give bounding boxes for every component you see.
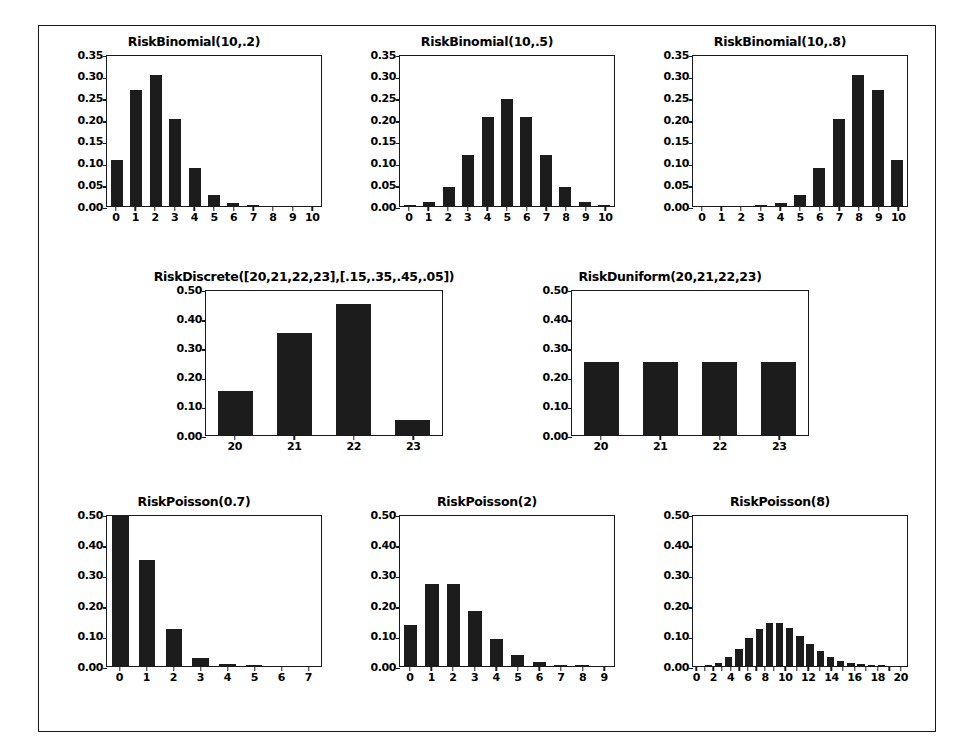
- bar-slot: [324, 291, 383, 435]
- bar: [501, 99, 513, 206]
- bar: [227, 203, 239, 206]
- bar-slot: [732, 56, 751, 206]
- x-axis-tick-label: 8: [263, 207, 283, 223]
- bar: [130, 90, 142, 206]
- x-axis-tick-label: [816, 667, 825, 683]
- x-axis-tick-label: 2: [160, 667, 187, 683]
- x-axis-tick-label: 10: [302, 207, 322, 223]
- bar-slot: [294, 516, 321, 666]
- bar-slot: [282, 56, 301, 206]
- x-axis-tick-label: 8: [761, 667, 770, 683]
- x-axis-tick-label: [769, 667, 778, 683]
- x-axis-tick-label: 2: [442, 667, 464, 683]
- bar-slot: [458, 56, 477, 206]
- bar: [559, 187, 571, 206]
- bar: [806, 644, 813, 666]
- chart-row-top: RiskBinomial(10,.2)0.350.300.250.200.150…: [39, 34, 935, 259]
- bar: [598, 205, 610, 206]
- bar: [395, 420, 429, 435]
- bar-slot: [571, 516, 592, 666]
- bar: [443, 187, 455, 206]
- bar-slot: [206, 291, 265, 435]
- bar: [533, 662, 546, 666]
- x-axis-tick-label: 10: [888, 207, 908, 223]
- x-axis-tick-label: 0: [399, 667, 421, 683]
- bar: [584, 362, 618, 435]
- bar-slot: [400, 56, 419, 206]
- bar-slot: [754, 516, 764, 666]
- bar-slot: [187, 516, 214, 666]
- bar-slot: [836, 516, 846, 666]
- bar-slot: [572, 291, 631, 435]
- bar-slot: [887, 516, 897, 666]
- bar: [150, 75, 162, 206]
- x-axis-tick-label: 6: [529, 667, 551, 683]
- x-axis-tick-label: 20: [205, 436, 265, 452]
- bar-slot: [825, 516, 835, 666]
- plot-body: 0.500.400.300.200.100.00: [531, 290, 809, 436]
- chart-duniform: RiskDuniform(20,21,22,23)0.500.400.300.2…: [505, 269, 835, 484]
- bar-slot: [528, 516, 549, 666]
- bar-slot: [897, 516, 907, 666]
- bar: [878, 665, 885, 666]
- x-axis: 0123456789: [399, 667, 615, 683]
- x-axis-tick-label: 2: [709, 667, 718, 683]
- x-axis-tick-label: [752, 667, 761, 683]
- bar: [776, 623, 783, 666]
- bar: [852, 75, 864, 206]
- bar-slot: [517, 56, 536, 206]
- x-axis-tick-label: 5: [497, 207, 517, 223]
- bar-slot: [790, 56, 809, 206]
- bar: [189, 168, 201, 206]
- chart-binomial-10-08: RiskBinomial(10,.8)0.350.300.250.200.150…: [637, 34, 923, 259]
- x-axis-tick-label: 1: [419, 207, 439, 223]
- bar-slot: [856, 516, 866, 666]
- y-axis: 0.500.400.300.200.100.00: [66, 515, 106, 667]
- bar-slot: [241, 516, 268, 666]
- bar: [715, 663, 722, 666]
- x-axis-tick-label: 6: [224, 207, 244, 223]
- bar: [404, 625, 417, 666]
- x-axis-tick-label: 9: [869, 207, 889, 223]
- chart-poisson-07: RiskPoisson(0.7)0.500.400.300.200.100.00…: [51, 494, 337, 719]
- bar: [745, 638, 752, 666]
- bar: [247, 205, 259, 206]
- bar-slot: [771, 56, 790, 206]
- bar-series: [693, 56, 907, 206]
- bar: [112, 515, 129, 666]
- plot-area: [106, 55, 322, 207]
- x-axis: 01234567: [106, 667, 322, 683]
- x-axis-tick-label: 7: [536, 207, 556, 223]
- x-axis-tick-label: 5: [241, 667, 268, 683]
- bar: [192, 658, 209, 667]
- bar-slot: [690, 291, 749, 435]
- bar: [702, 362, 736, 435]
- x-axis-tick-label: 20: [571, 436, 631, 452]
- bar: [554, 665, 567, 666]
- bar-slot: [693, 56, 712, 206]
- x-axis-tick-label: [885, 667, 894, 683]
- bar-slot: [593, 516, 614, 666]
- bar-series: [107, 56, 321, 206]
- bar: [520, 117, 532, 206]
- bar: [169, 119, 181, 206]
- bar-slot: [849, 56, 868, 206]
- bar: [462, 155, 474, 206]
- x-axis: 20212223: [571, 436, 809, 452]
- bar: [482, 117, 494, 206]
- bar: [796, 636, 803, 666]
- bar: [833, 119, 845, 206]
- bar-slot: [421, 516, 442, 666]
- y-axis: 0.500.400.300.200.100.00: [652, 515, 692, 667]
- chart-discrete: RiskDiscrete([20,21,22,23],[.15,.35,.45,…: [139, 269, 469, 484]
- bar: [219, 664, 236, 666]
- x-axis-tick-label: 23: [384, 436, 444, 452]
- chart-title: RiskBinomial(10,.8): [714, 34, 846, 49]
- x-axis-tick-label: 8: [556, 207, 576, 223]
- x-axis-tick-label: 3: [751, 207, 771, 223]
- x-axis-tick-label: 16: [847, 667, 862, 683]
- plot-area: [399, 515, 615, 667]
- bar: [756, 629, 763, 666]
- bar-slot: [265, 291, 324, 435]
- x-axis-tick-label: 4: [485, 667, 507, 683]
